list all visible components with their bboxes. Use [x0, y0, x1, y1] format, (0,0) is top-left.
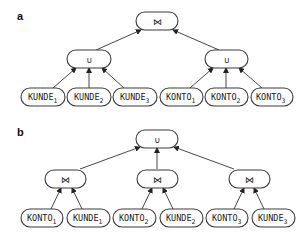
node-join-left: ⋈ [45, 170, 86, 188]
leaf-kunde-1: KUNDE1 [67, 209, 110, 227]
leaf-subscript: 1 [54, 97, 58, 105]
join-icon: ⋈ [153, 17, 162, 27]
query-tree-diagram: a ⋈ ∪ ∪ KUNDE1 [0, 0, 308, 237]
node-union-right: ∪ [205, 50, 248, 68]
join-icon: ⋈ [61, 175, 70, 185]
node-union-root: ∪ [136, 130, 178, 148]
edge-kunde3-to-union [102, 68, 124, 88]
edge-union-left-to-join [96, 30, 141, 50]
leaf-name: KONTO [256, 92, 282, 102]
leaf-subscript: 3 [284, 218, 288, 226]
leaf-subscript: 3 [238, 218, 242, 226]
edge-kunde1-to-union [53, 68, 76, 88]
node-join-right: ⋈ [229, 170, 270, 188]
leaf-name: KONTO [166, 92, 192, 102]
leaf-subscript: 2 [192, 218, 196, 226]
leaf-konto-2: KONTO2 [113, 209, 156, 227]
leaf-subscript: 3 [282, 97, 286, 105]
leaf-name: KUNDE [28, 92, 54, 102]
leaf-subscript: 2 [237, 97, 241, 105]
join-icon: ⋈ [245, 175, 254, 185]
leaf-subscript: 1 [99, 218, 103, 226]
panel-a-label: a [17, 10, 24, 22]
leaf-name: KONTO [211, 92, 237, 102]
leaf-subscript: 1 [192, 97, 196, 105]
union-icon: ∪ [224, 55, 229, 65]
edge-konto1-to-union [190, 68, 213, 88]
leaf-subscript: 2 [145, 218, 149, 226]
leaf-konto-1: KONTO1 [160, 88, 203, 106]
leaf-name: KUNDE [166, 213, 192, 223]
leaf-name: KONTO [27, 213, 53, 223]
leaf-kunde-3: KUNDE3 [113, 88, 157, 106]
leaf-name: KONTO [212, 213, 238, 223]
leaf-name: KONTO [119, 213, 145, 223]
edge-konto2-to-join [142, 188, 152, 209]
edge-union-right-to-join [173, 30, 219, 50]
leaf-konto-3: KONTO3 [206, 209, 248, 227]
panel-b-label: b [17, 126, 24, 138]
leaf-konto-3: KONTO3 [251, 88, 293, 106]
edge-konto1-to-join [51, 188, 61, 209]
edge-kunde2-to-join [163, 188, 173, 209]
panel-a: a ⋈ ∪ ∪ KUNDE1 [17, 10, 293, 106]
leaf-name: KUNDE [258, 213, 284, 223]
leaf-konto-1: KONTO1 [21, 209, 63, 227]
leaf-subscript: 3 [146, 97, 150, 105]
union-icon: ∪ [154, 135, 159, 145]
panel-b: b ∪ ⋈ ⋈ ⋈ KONTO [17, 126, 295, 227]
leaf-kunde-3: KUNDE3 [252, 209, 295, 227]
edge-kunde1-to-join [72, 188, 82, 209]
leaf-subscript: 2 [100, 97, 104, 105]
leaf-konto-2: KONTO2 [205, 88, 248, 106]
edge-konto3-to-join [234, 188, 244, 209]
leaf-name: KUNDE [73, 213, 99, 223]
leaf-subscript: 1 [53, 218, 57, 226]
edge-join-right-to-union [174, 147, 234, 169]
edge-join-left-to-union [80, 147, 140, 169]
edge-konto3-to-union [239, 68, 262, 88]
leaf-kunde-2: KUNDE2 [67, 88, 111, 106]
node-union-left: ∪ [67, 50, 111, 68]
leaf-kunde-2: KUNDE2 [160, 209, 203, 227]
join-icon: ⋈ [153, 175, 162, 185]
leaf-kunde-1: KUNDE1 [21, 88, 65, 106]
leaf-name: KUNDE [74, 92, 100, 102]
union-icon: ∪ [86, 55, 91, 65]
node-join-middle: ⋈ [137, 170, 178, 188]
edge-kunde3-to-join [254, 188, 264, 209]
leaf-name: KUNDE [120, 92, 146, 102]
node-join-root: ⋈ [136, 12, 178, 30]
